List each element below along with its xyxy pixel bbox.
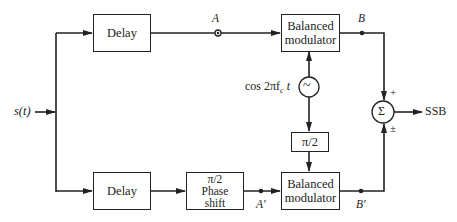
oscillator-label-suffix: t bbox=[284, 79, 290, 93]
carrier-shift-label: π/2 bbox=[302, 135, 318, 149]
oscillator-label: cos 2πfc t bbox=[245, 79, 290, 95]
terminal-A-dot bbox=[217, 32, 219, 34]
carrier-phase-shift-block: π/2 bbox=[291, 132, 329, 152]
oscillator-label-main: cos 2πf bbox=[245, 79, 280, 93]
phase-shift-line2: Phase bbox=[202, 185, 229, 197]
node-B-dot bbox=[360, 31, 365, 36]
node-A-label: A bbox=[212, 12, 219, 24]
node-A-prime-label: A′ bbox=[256, 198, 266, 210]
mod-top-line2: modulator bbox=[285, 33, 336, 47]
arrow-B-to-summer bbox=[339, 33, 384, 100]
mod-bottom-line1: Balanced bbox=[287, 177, 334, 191]
ssb-phase-shift-diagram: Delay Delay π/2 Phase shift Balanced mod… bbox=[0, 0, 457, 222]
summer-symbol: Σ bbox=[378, 104, 385, 119]
node-A-prime-dot bbox=[259, 189, 264, 194]
arrow-B-prime-to-summer bbox=[339, 124, 384, 191]
balanced-modulator-top: Balanced modulator bbox=[281, 14, 340, 52]
delay-block-top: Delay bbox=[93, 14, 151, 52]
phase-shift-line1: π/2 bbox=[208, 173, 223, 185]
delay-block-bottom: Delay bbox=[93, 172, 151, 210]
summer-sign-bottom: ± bbox=[390, 122, 396, 134]
node-B-prime-label: B′ bbox=[356, 198, 366, 210]
delay-bottom-label: Delay bbox=[107, 184, 137, 198]
input-label: s(t) bbox=[14, 104, 31, 119]
output-label: SSB bbox=[425, 104, 446, 119]
node-B-label: B bbox=[358, 12, 365, 24]
node-B-prime-dot bbox=[359, 189, 364, 194]
phase-shift-line3: shift bbox=[205, 197, 225, 209]
balanced-modulator-bottom: Balanced modulator bbox=[281, 172, 340, 210]
phase-shift-block: π/2 Phase shift bbox=[186, 172, 244, 210]
mod-bottom-line2: modulator bbox=[285, 191, 336, 205]
mod-top-line1: Balanced bbox=[287, 19, 334, 33]
summer-sign-top: + bbox=[390, 86, 396, 98]
oscillator-symbol: ~ bbox=[303, 78, 311, 94]
delay-top-label: Delay bbox=[107, 26, 137, 40]
